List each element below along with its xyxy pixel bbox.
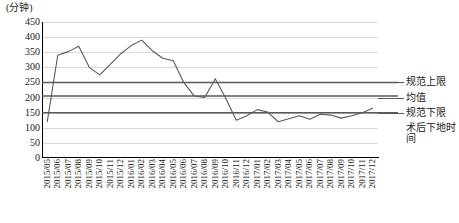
x-axis-tick-label: 2017/08 xyxy=(326,159,335,189)
x-axis-tick-label: 2016/02 xyxy=(137,159,146,189)
x-axis-tick-label: 2017/11 xyxy=(358,159,367,188)
x-axis-tick-label: 2017/07 xyxy=(316,159,325,189)
x-axis-tick-label: 2016/10 xyxy=(221,159,230,189)
legend-swatch-line xyxy=(378,82,404,83)
x-axis-tick-label: 2015/08 xyxy=(74,159,83,189)
x-axis-tick-label: 2017/06 xyxy=(305,159,314,189)
x-axis-tick-label: 2016/03 xyxy=(148,159,157,189)
y-axis-line xyxy=(42,22,43,158)
y-axis-tick-label: 200 xyxy=(0,93,40,103)
x-axis-tick-label: 2015/05 xyxy=(43,159,52,189)
x-axis-tick-label: 2016/04 xyxy=(158,159,167,189)
y-axis-tick-label: 50 xyxy=(0,138,40,148)
legend-label: 术后下地时间 xyxy=(406,122,458,144)
y-axis-tick-label: 300 xyxy=(0,62,40,72)
gridline xyxy=(42,143,378,144)
plot-gridlines xyxy=(42,22,378,158)
x-axis-tick-label: 2016/05 xyxy=(169,159,178,189)
x-axis-tick-label: 2015/09 xyxy=(85,159,94,189)
x-axis-tick-label: 2015/07 xyxy=(64,159,73,189)
gridline xyxy=(42,128,378,129)
gridline xyxy=(42,113,378,114)
x-axis-tick-label: 2016/08 xyxy=(200,159,209,189)
x-axis-tick-label: 2017/03 xyxy=(274,159,283,189)
x-axis-tick-label: 2017/01 xyxy=(253,159,262,189)
x-axis-tick-label: 2017/02 xyxy=(263,159,272,189)
legend-swatch-line xyxy=(378,98,404,99)
legend-label: 均值 xyxy=(406,92,426,103)
legend-label: 规范下限 xyxy=(406,107,446,118)
y-axis-tick-label: 400 xyxy=(0,32,40,42)
x-axis-tick-label: 2015/11 xyxy=(106,159,115,188)
y-axis-tick-label: 250 xyxy=(0,77,40,87)
x-axis-tick-label: 2016/06 xyxy=(179,159,188,189)
gridline xyxy=(42,52,378,53)
x-axis-tick-label: 2017/05 xyxy=(295,159,304,189)
x-axis-tick-label: 2015/10 xyxy=(95,159,104,189)
y-axis-tick-label: 0 xyxy=(0,153,40,163)
y-axis-tick-label: 150 xyxy=(0,108,40,118)
x-axis-tick-label: 2017/09 xyxy=(337,159,346,189)
x-axis-tick-label: 2015/12 xyxy=(116,159,125,189)
gridline xyxy=(42,98,378,99)
x-axis-tick-label: 2017/04 xyxy=(284,159,293,189)
x-axis-tick-label: 2016/12 xyxy=(242,159,251,189)
y-axis-tick-label: 350 xyxy=(0,47,40,57)
gridline xyxy=(42,37,378,38)
y-axis-tick-label: 100 xyxy=(0,123,40,133)
x-axis-tick-label: 2017/10 xyxy=(347,159,356,189)
x-axis-tick-label: 2016/01 xyxy=(127,159,136,189)
x-axis-tick-layer: 2015/052015/062015/072015/082015/092015/… xyxy=(42,159,378,221)
y-axis-tick-label: 450 xyxy=(0,17,40,27)
x-axis-tick-label: 2015/06 xyxy=(53,159,62,189)
x-axis-tick-label: 2016/11 xyxy=(232,159,241,188)
legend-label: 规范上限 xyxy=(406,76,446,87)
gridline xyxy=(42,82,378,83)
x-axis-tick-label: 2016/09 xyxy=(211,159,220,189)
gridline xyxy=(42,67,378,68)
legend-swatch-line xyxy=(378,113,404,114)
x-axis-tick-label: 2017/12 xyxy=(368,159,377,189)
chart-root: (分钟) 450400350300250200150100500 2015/05… xyxy=(0,0,459,223)
x-axis-tick-label: 2016/07 xyxy=(190,159,199,189)
y-axis-unit-label: (分钟) xyxy=(6,2,33,13)
gridline xyxy=(42,22,378,23)
